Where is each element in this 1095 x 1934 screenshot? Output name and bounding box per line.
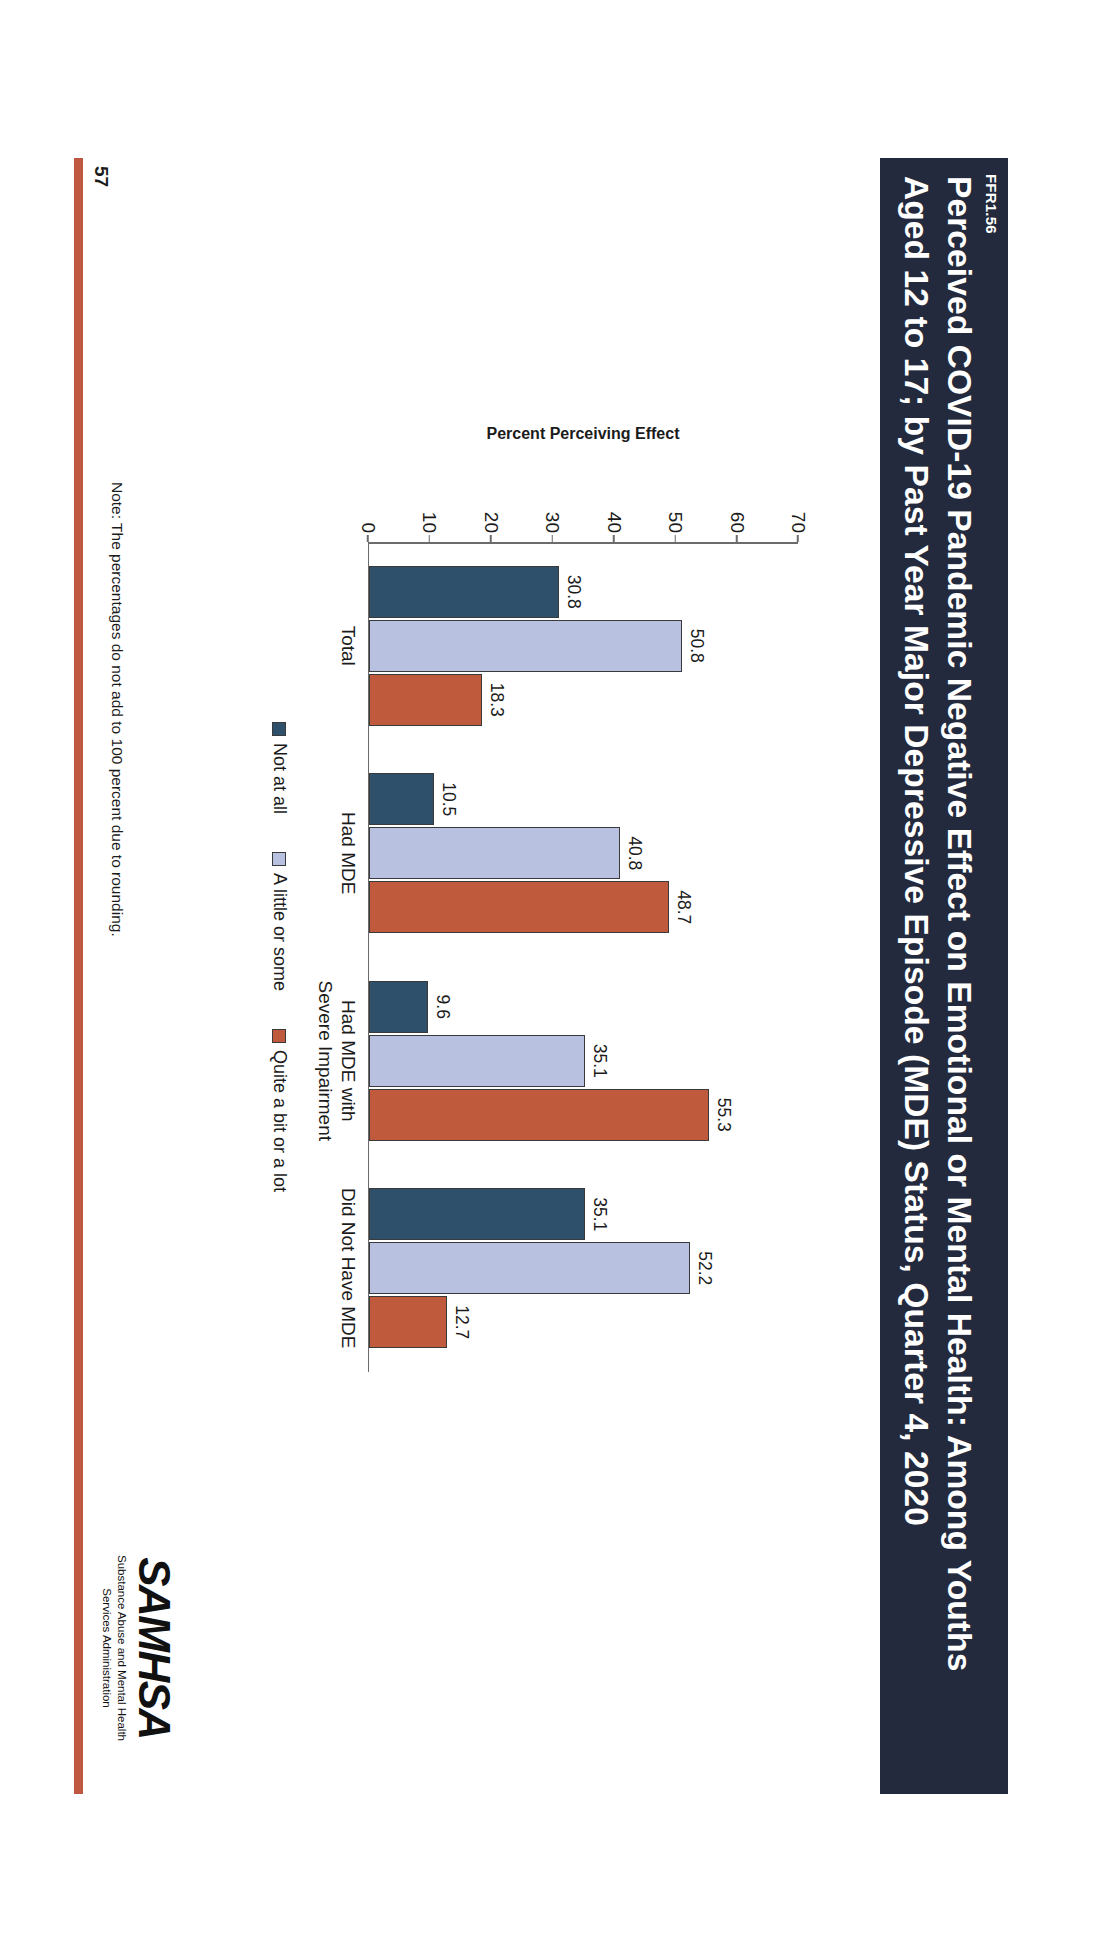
page-number: 57: [90, 166, 112, 187]
bar: 12.7: [369, 1296, 447, 1348]
title-band: FFR1.56 Perceived COVID-19 Pandemic Nega…: [880, 158, 1008, 1794]
samhsa-subtitle-line1: Substance Abuse and Mental Health: [114, 1528, 128, 1768]
bar-value-label: 35.1: [589, 1197, 610, 1231]
y-axis-tick-label: 50: [664, 512, 686, 533]
legend-item: Quite a bit or a lot: [269, 1029, 290, 1192]
y-axis-tick-mark: [428, 535, 430, 542]
accent-bar: [74, 158, 83, 1794]
bar-value-label: 55.3: [713, 1098, 734, 1132]
legend-swatch-icon: [272, 852, 286, 866]
y-axis-tick-mark: [490, 535, 492, 542]
y-axis-tick-mark: [674, 535, 676, 542]
bar: 35.1: [369, 1035, 585, 1087]
bar-value-label: 12.7: [451, 1305, 472, 1339]
y-axis-tick-label: 30: [541, 512, 563, 533]
y-axis-tick-mark: [367, 535, 369, 542]
y-axis-tick-label: 60: [725, 512, 747, 533]
chart-legend: Not at allA little or someQuite a bit or…: [269, 542, 290, 1372]
slide: FFR1.56 Perceived COVID-19 Pandemic Nega…: [48, 62, 1048, 1872]
bar: 10.5: [369, 773, 434, 825]
samhsa-subtitle-line2: Services Administration: [100, 1528, 114, 1768]
y-axis-tick-mark: [551, 535, 553, 542]
bar: 18.3: [369, 674, 481, 726]
x-axis-category-label: Did Not Have MDE: [337, 1188, 360, 1349]
bar-value-label: 18.3: [485, 683, 506, 717]
bar-group: 10.540.848.7Had MDE: [369, 750, 799, 958]
legend-swatch-icon: [272, 722, 286, 736]
bar: 30.8: [369, 566, 558, 618]
x-axis-category-label-line: Had MDE: [337, 812, 360, 894]
page-title: Perceived COVID-19 Pandemic Negative Eff…: [894, 176, 980, 1776]
bar: 55.3: [369, 1089, 709, 1141]
bar-value-label: 30.8: [562, 575, 583, 609]
legend-item: A little or some: [269, 852, 290, 991]
bar: 50.8: [369, 620, 681, 672]
legend-item-label: Quite a bit or a lot: [269, 1050, 290, 1192]
samhsa-wordmark: SAMHSA: [131, 1528, 175, 1768]
bar-value-label: 9.6: [432, 995, 453, 1019]
bar-group: 30.850.818.3Total: [369, 542, 799, 750]
y-axis-tick-label: 10: [418, 512, 440, 533]
bar: 48.7: [369, 881, 668, 933]
x-axis-category-label-line: Did Not Have MDE: [337, 1188, 360, 1349]
legend-item-label: A little or some: [269, 873, 290, 991]
y-axis-tick-label: 70: [787, 512, 809, 533]
plot-area: Percent Perceiving Effect 01020304050607…: [368, 542, 798, 1372]
page-title-line1: Perceived COVID-19 Pandemic Negative Eff…: [937, 176, 980, 1776]
page-title-line2: Aged 12 to 17; by Past Year Major Depres…: [894, 176, 937, 1776]
legend-swatch-icon: [272, 1029, 286, 1043]
y-axis-tick-mark: [797, 535, 799, 542]
bar-value-label: 35.1: [589, 1044, 610, 1078]
y-axis-tick-mark: [612, 535, 614, 542]
bar-group: 9.635.155.3Had MDE withSevere Impairment: [369, 957, 799, 1165]
x-axis-category-label: Had MDE withSevere Impairment: [314, 980, 360, 1141]
legend-item-label: Not at all: [269, 743, 290, 814]
bar: 40.8: [369, 827, 620, 879]
x-axis-category-label-line: Total: [337, 626, 360, 666]
legend-item: Not at all: [269, 722, 290, 814]
bar: 9.6: [369, 981, 428, 1033]
figure-number-tag: FFR1.56: [983, 174, 1000, 234]
bar: 35.1: [369, 1188, 585, 1240]
x-axis-category-label: Had MDE: [337, 812, 360, 894]
footnote: Note: The percentages do not add to 100 …: [108, 482, 126, 937]
page-canvas: FFR1.56 Perceived COVID-19 Pandemic Nega…: [0, 0, 1095, 1934]
bar-group: 35.152.212.7Did Not Have MDE: [369, 1165, 799, 1373]
samhsa-logo: SAMHSA Substance Abuse and Mental Health…: [100, 1528, 176, 1768]
y-axis-tick-label: 0: [357, 522, 379, 533]
y-axis-tick-label: 20: [479, 512, 501, 533]
x-axis-category-label: Total: [337, 626, 360, 666]
y-axis-tick-mark: [735, 535, 737, 542]
y-axis-title: Percent Perceiving Effect: [486, 425, 679, 443]
bar-value-label: 10.5: [438, 782, 459, 816]
y-axis-tick-label: 40: [602, 512, 624, 533]
bar-chart: Percent Perceiving Effect 01020304050607…: [238, 392, 798, 1452]
bar-value-label: 48.7: [672, 890, 693, 924]
bar-value-label: 52.2: [694, 1251, 715, 1285]
bar: 52.2: [369, 1242, 690, 1294]
x-axis-category-label-line: Severe Impairment: [314, 980, 337, 1141]
bar-value-label: 50.8: [685, 629, 706, 663]
bar-value-label: 40.8: [624, 836, 645, 870]
x-axis-category-label-line: Had MDE with: [337, 980, 360, 1141]
